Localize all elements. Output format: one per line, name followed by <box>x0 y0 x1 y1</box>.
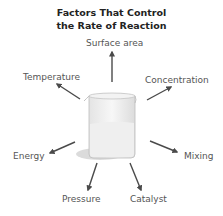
arrow-catalyst <box>130 163 141 190</box>
label-surface-area: Surface area <box>86 38 143 48</box>
arrow-temperature <box>57 84 80 99</box>
label-concentration: Concentration <box>145 75 209 85</box>
arrow-energy <box>50 142 75 153</box>
label-temperature: Temperature <box>23 72 80 82</box>
label-pressure: Pressure <box>62 194 100 204</box>
arrow-mixing <box>150 141 177 152</box>
arrow-concentration <box>147 87 171 100</box>
label-energy: Energy <box>13 151 45 161</box>
beaker-icon <box>76 93 136 160</box>
label-mixing: Mixing <box>184 151 214 161</box>
arrow-pressure <box>88 163 97 190</box>
diagram-canvas <box>0 0 223 216</box>
label-catalyst: Catalyst <box>130 194 167 204</box>
